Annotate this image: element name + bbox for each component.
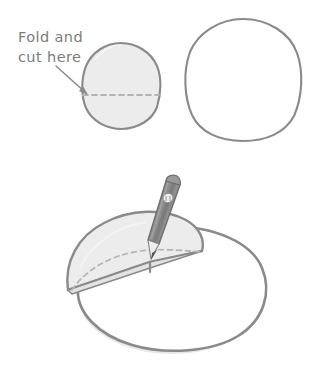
- plain-circle-outline: [185, 19, 301, 141]
- illustration-canvas: Fold and cut here: [0, 0, 318, 391]
- annotation-group: Fold and cut here: [18, 29, 88, 95]
- shaded-circle-fill: [82, 43, 160, 129]
- bottom-assembly-group: [67, 175, 266, 354]
- annotation-line-1: Fold and: [18, 29, 83, 45]
- top-right-circle-group: [185, 19, 301, 141]
- top-left-circle-group: [82, 43, 160, 129]
- annotation-line-2: cut here: [18, 49, 81, 65]
